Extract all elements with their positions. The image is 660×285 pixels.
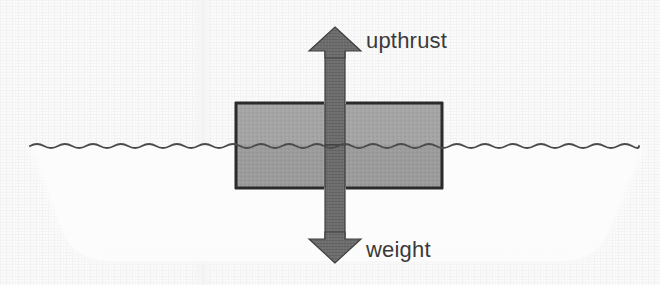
- diagram-canvas: upthrust weight: [0, 0, 660, 285]
- upthrust-label: upthrust: [366, 30, 447, 52]
- diagram-graphics: [0, 0, 660, 285]
- weight-label: weight: [366, 239, 431, 261]
